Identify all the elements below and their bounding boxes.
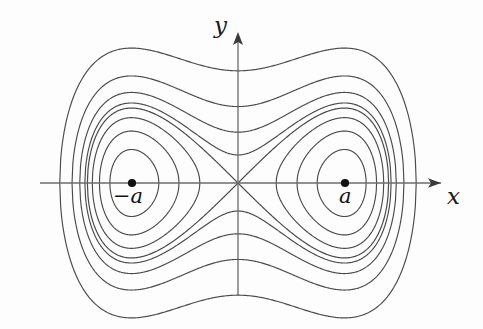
axes-group <box>40 32 441 295</box>
y-axis-label: y <box>214 14 227 37</box>
fixed-point-label-negative-a: −a <box>113 186 143 207</box>
fixed-point-label-positive-a: a <box>339 186 352 207</box>
phase-portrait-figure: y x −a a <box>0 0 483 329</box>
x-axis-label: x <box>447 185 460 208</box>
phase-portrait-canvas <box>0 0 483 329</box>
